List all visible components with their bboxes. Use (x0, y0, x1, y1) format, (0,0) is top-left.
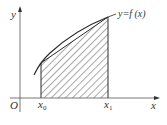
hatched-region (41, 17, 108, 98)
x1-label: x1 (103, 98, 113, 112)
curve-label: y=f (x) (117, 8, 146, 20)
diagram-canvas: y x O x0 x1 y=f (x) (0, 0, 167, 125)
y-axis-label: y (10, 8, 16, 20)
x0-label: x0 (37, 98, 47, 112)
y-axis-arrow-icon (18, 6, 22, 12)
x-axis-label: x (150, 99, 156, 111)
curve-label-leader (108, 14, 116, 17)
origin-label: O (10, 99, 18, 111)
